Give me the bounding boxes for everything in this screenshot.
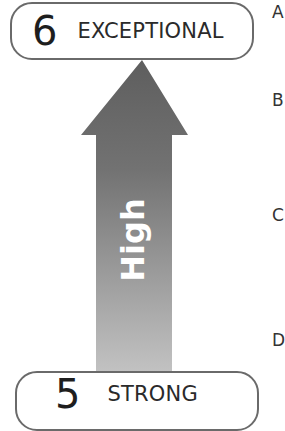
level-number: 6 bbox=[32, 11, 57, 51]
edge-letter-c: C bbox=[272, 205, 284, 225]
level-box-strong: 5 STRONG bbox=[15, 371, 259, 431]
level-label: EXCEPTIONAL bbox=[77, 19, 223, 43]
level-label: STRONG bbox=[107, 382, 197, 406]
edge-letter-b: B bbox=[272, 90, 284, 110]
edge-letter-d: D bbox=[272, 330, 285, 350]
arrow-label: High bbox=[115, 195, 151, 285]
level-number: 5 bbox=[55, 374, 80, 414]
level-box-exceptional: 6 EXCEPTIONAL bbox=[10, 2, 254, 60]
edge-letter-a: A bbox=[272, 2, 284, 22]
